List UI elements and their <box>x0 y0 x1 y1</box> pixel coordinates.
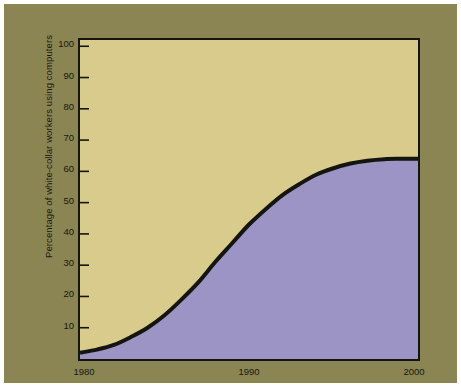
plot-area <box>78 38 420 361</box>
y-tick-label: 10 <box>48 321 74 331</box>
y-tick-label: 50 <box>48 196 74 206</box>
y-axis-tick-labels: 102030405060708090100 <box>46 38 74 361</box>
y-tick-label: 30 <box>48 258 74 268</box>
x-tick-label: 2000 <box>403 366 424 377</box>
y-tick-label: 100 <box>48 39 74 49</box>
y-tick-label: 20 <box>48 289 74 299</box>
area-chart-svg <box>80 40 418 359</box>
area-fill-below-curve <box>80 159 418 359</box>
chart-figure: Percentage of white-collar workers using… <box>0 0 461 391</box>
y-tick-label: 70 <box>48 133 74 143</box>
x-axis-tick-labels: 198019902000 <box>78 366 420 382</box>
y-tick-label: 90 <box>48 71 74 81</box>
series-group <box>80 159 418 359</box>
y-tick-label: 60 <box>48 164 74 174</box>
x-tick-label: 1980 <box>73 366 94 377</box>
y-tick-label: 80 <box>48 102 74 112</box>
figure-mat-border: Percentage of white-collar workers using… <box>4 4 457 383</box>
y-tick-label: 40 <box>48 227 74 237</box>
x-tick-label: 1990 <box>238 366 259 377</box>
